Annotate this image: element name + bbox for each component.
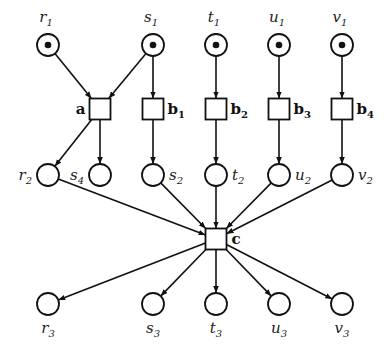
token-s1: [150, 42, 157, 49]
label-b1: b1: [168, 100, 185, 120]
place-v2: [331, 164, 353, 186]
label-u3: u3: [271, 319, 287, 339]
token-r1: [45, 42, 52, 49]
place-v3: [331, 293, 353, 315]
label-v3: v3: [335, 319, 350, 339]
arc-c-to-v3: [227, 244, 333, 299]
label-s2: s2: [169, 166, 183, 186]
label-v2: v2: [358, 166, 373, 186]
label-r2: r2: [18, 166, 32, 186]
label-r1: r1: [39, 8, 53, 28]
arc-a-to-r2: [55, 120, 92, 167]
place-u2: [268, 164, 290, 186]
place-t2: [205, 164, 227, 186]
arc-c-to-s3: [161, 250, 206, 297]
petri-net-diagram: r1s1t1u1v1ab1b2b3b4r2s4s2t2u2v2cr3s3t3u3…: [0, 0, 389, 348]
label-t3: t3: [210, 319, 222, 339]
label-c: c: [232, 230, 241, 248]
transition-b3: [269, 99, 290, 120]
arc-s1-to-a: [109, 53, 146, 98]
label-b3: b3: [294, 100, 312, 120]
label-s1: s1: [144, 8, 158, 28]
label-a: a: [76, 100, 86, 118]
label-r3: r3: [41, 319, 55, 339]
arc-s2-to-c: [161, 183, 206, 229]
place-r2: [37, 164, 59, 186]
transition-b4: [332, 99, 353, 120]
place-s2: [142, 164, 164, 186]
place-t3: [205, 293, 227, 315]
place-s4: [89, 164, 111, 186]
place-u3: [268, 293, 290, 315]
transition-b2: [206, 99, 227, 120]
label-u2: u2: [295, 166, 311, 186]
arc-v2-to-c: [227, 180, 333, 234]
label-u1: u1: [269, 8, 285, 28]
arc-r1-to-a: [55, 54, 92, 99]
label-b4: b4: [357, 100, 375, 120]
place-s3: [142, 293, 164, 315]
place-r3: [37, 293, 59, 315]
token-u1: [276, 42, 283, 49]
transition-b1: [143, 99, 164, 120]
label-s4: s4: [70, 166, 84, 186]
label-t1: t1: [208, 8, 220, 28]
label-b2: b2: [231, 100, 249, 120]
label-t2: t2: [232, 166, 244, 186]
labels-layer: r1s1t1u1v1ab1b2b3b4r2s4s2t2u2v2cr3s3t3u3…: [18, 8, 374, 339]
label-s3: s3: [146, 319, 160, 339]
transition-a: [90, 99, 111, 120]
transition-c: [206, 229, 227, 250]
label-v1: v1: [333, 8, 348, 28]
token-t1: [213, 42, 220, 49]
token-v1: [339, 42, 346, 49]
